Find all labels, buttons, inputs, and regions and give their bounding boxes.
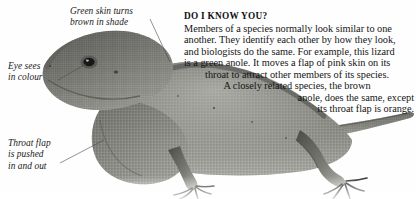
lizard-throat-flap: [92, 100, 188, 185]
leader-line-green-skin: [150, 19, 170, 62]
article-heading: DO I KNOW YOU?: [184, 11, 416, 22]
article-line: its throat flap is orange.: [184, 103, 416, 115]
lizard-tail: [300, 112, 414, 142]
article-line: is a green anole. It moves a flap of pin…: [184, 57, 416, 69]
article-line: another. They identify each other by how…: [184, 34, 416, 46]
lizard-head: [43, 31, 173, 110]
callout-green-skin: Green skin turns brown in shade: [70, 6, 133, 29]
article-line: A closely related species, the brown: [184, 80, 416, 92]
leader-line-throat-flap: [60, 140, 104, 163]
lizard-front-foot: [174, 186, 214, 199]
lizard-front-leg: [168, 146, 214, 199]
lizard-eye: [81, 55, 98, 68]
article-line: throat to attract other members of its s…: [184, 69, 416, 81]
article-line: Members of a species normally look simil…: [184, 23, 416, 35]
lizard-hind-foot: [324, 178, 367, 199]
article-line: anole, does the same, except: [184, 92, 416, 104]
leader-line-eye: [58, 64, 86, 80]
article-line: and biologists do the same. For example,…: [184, 46, 416, 58]
article-text-block: DO I KNOW YOU? Members of a species norm…: [184, 11, 416, 115]
page-root: Green skin turns brown in shade Eye sees…: [0, 0, 416, 199]
lizard-hind-leg: [296, 130, 367, 199]
callout-eye: Eye sees in colour: [8, 61, 43, 84]
callout-throat-flap: Throat flap is pushed in and out: [8, 138, 51, 172]
